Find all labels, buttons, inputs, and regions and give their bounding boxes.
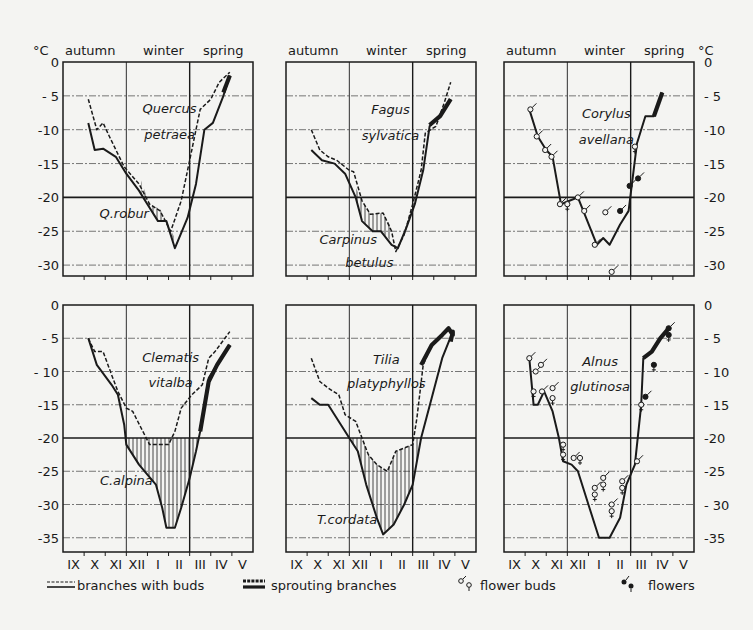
- y-tick-label: -20: [704, 190, 725, 205]
- month-label: V: [679, 557, 688, 572]
- y-tick-label: 0: [51, 55, 59, 70]
- y-tick-label: - 5: [704, 331, 721, 346]
- panel-tilia: IXXXIXIIIIIIIIIVVTiliaplatyphyllosT.cord…: [286, 305, 476, 572]
- y-tick-label: -35: [704, 531, 725, 546]
- month-label: X: [90, 557, 99, 572]
- legend-label-branches: branches with buds: [77, 578, 205, 593]
- series-tilia-sprouting: [421, 328, 453, 365]
- month-label: IV: [438, 557, 451, 572]
- species-label: avellana: [579, 132, 634, 147]
- season-label-spring: spring: [426, 43, 466, 58]
- species-label: glutinosa: [570, 379, 630, 394]
- y-tick-label: -15: [38, 398, 59, 413]
- species-label: Q.robur: [99, 206, 150, 221]
- male-bud-icon: [575, 191, 584, 200]
- male-flower-icon: [666, 322, 675, 331]
- species-label: petraea: [143, 127, 195, 142]
- y-tick-label: - 5: [704, 89, 721, 104]
- male-female-flower-icon: [622, 576, 634, 592]
- y-tick-label: - 5: [42, 89, 59, 104]
- month-label: IX: [67, 557, 80, 572]
- month-label: II: [175, 557, 183, 572]
- male-bud-icon: [538, 359, 547, 368]
- male-bud-icon: [609, 499, 618, 508]
- y-tick-label: -20: [38, 190, 59, 205]
- male-flower-icon: [643, 391, 652, 400]
- male-bud-icon: [527, 352, 536, 361]
- male-bud-icon: [550, 382, 559, 391]
- month-label: XI: [332, 557, 345, 572]
- species-label: Carpinus: [320, 232, 378, 247]
- species-label: vitalba: [149, 375, 193, 390]
- y-tick-label: - 5: [42, 331, 59, 346]
- month-label: II: [398, 557, 406, 572]
- y-tick-label: -30: [38, 258, 59, 273]
- species-label: betulus: [345, 255, 393, 270]
- season-label-autumn: autumn: [288, 43, 338, 58]
- species-label: Clematis: [142, 350, 199, 365]
- month-label: II: [616, 557, 624, 572]
- y-tick-label: - 30: [704, 498, 729, 513]
- female-bud-icon: [531, 389, 536, 399]
- y-tick-label: -30: [704, 258, 725, 273]
- series-corylus-sprouting: [654, 93, 662, 117]
- season-label-autumn: autumn: [65, 43, 115, 58]
- season-label-spring: spring: [644, 43, 684, 58]
- panel-quercus: autumnwinterspring0- 5-10-15-20-25-30°CQ…: [33, 43, 253, 280]
- female-bud-icon: [565, 202, 570, 212]
- month-label: III: [194, 557, 206, 572]
- series-alnus-sprouting: [643, 328, 668, 358]
- series-clematis-sprouting: [200, 345, 230, 432]
- y-tick-label: - 10: [34, 365, 59, 380]
- y-tick-label: - 15: [704, 398, 729, 413]
- female-bud-icon: [577, 455, 582, 465]
- species-label: T.cordata: [317, 512, 377, 527]
- female-bud-icon: [601, 482, 606, 492]
- chart-canvas: autumnwinterspring0- 5-10-15-20-25-30°CQ…: [0, 0, 753, 630]
- y-tick-label: -25: [38, 224, 59, 239]
- unit-label-left: °C: [33, 43, 49, 58]
- male-bud-icon: [592, 482, 601, 491]
- species-label: Alnus: [581, 354, 618, 369]
- panel-corylus: autumnwinterspring0- 5-10-15-20-25-30°CC…: [504, 43, 725, 280]
- legend-label-flowers: flowers: [648, 578, 695, 593]
- month-label: V: [238, 557, 247, 572]
- panels-group: autumnwinterspring0- 5-10-15-20-25-30°CQ…: [33, 43, 729, 572]
- female-bud-icon: [550, 396, 555, 406]
- legend-label-sprouting: sprouting branches: [271, 578, 397, 593]
- species-label: Tilia: [373, 352, 400, 367]
- male-bud-icon: [603, 206, 612, 215]
- month-label: I: [156, 557, 160, 572]
- species-label: sylvatica: [362, 128, 420, 143]
- month-label: X: [531, 557, 540, 572]
- y-tick-label: -15: [704, 157, 725, 172]
- female-bud-icon: [609, 509, 614, 519]
- series-clematis-alpina: [88, 338, 230, 528]
- month-label: V: [461, 557, 470, 572]
- figure: autumnwinterspring0- 5-10-15-20-25-30°CQ…: [0, 0, 753, 630]
- month-label: I: [379, 557, 383, 572]
- plot-frame: [504, 305, 694, 552]
- y-tick-label: -15: [38, 157, 59, 172]
- y-tick-label: -20: [704, 431, 725, 446]
- unit-label-right: °C: [698, 43, 714, 58]
- male-bud-icon: [549, 151, 558, 160]
- panel-alnus: IXXXIXIIIIIIIIIVV0- 5- 10- 15-20-25- 30-…: [504, 298, 729, 572]
- season-label-winter: winter: [143, 43, 185, 58]
- y-tick-label: 0: [704, 298, 712, 313]
- panel-fagus: autumnwinterspringFagussylvaticaCarpinus…: [286, 43, 476, 280]
- panel-clematis: IXXXIXIIIIIIIIIVV0- 5- 10-15-20-25-30-35…: [34, 298, 253, 572]
- male-female-bud-icon: [459, 576, 472, 591]
- month-label: X: [313, 557, 322, 572]
- female-flower-icon: [651, 362, 656, 372]
- month-label: XII: [570, 557, 587, 572]
- plot-frame: [63, 305, 253, 552]
- y-tick-label: -30: [38, 498, 59, 513]
- month-label: IX: [508, 557, 521, 572]
- month-label: IV: [215, 557, 228, 572]
- month-label: XI: [109, 557, 122, 572]
- species-label: Quercus: [143, 101, 197, 116]
- y-tick-label: -25: [704, 224, 725, 239]
- season-label-autumn: autumn: [506, 43, 556, 58]
- species-label: C.alpina: [100, 473, 153, 488]
